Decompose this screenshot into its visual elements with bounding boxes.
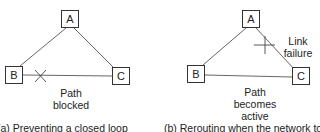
node-b-panel-b: B xyxy=(187,65,205,83)
path-blocked-line2: blocked xyxy=(46,99,96,111)
path-active-line2: becomes xyxy=(225,98,285,110)
path-blocked-line1: Path xyxy=(46,87,96,99)
spanning-tree-diagram: A B C Path blocked (a) Preventing a clos… xyxy=(0,0,320,132)
link-failure-line2: failure xyxy=(278,47,318,59)
blocked-x-icon xyxy=(35,70,46,82)
link-failure-line1: Link xyxy=(278,35,318,47)
node-a-panel-a: A xyxy=(61,10,79,28)
link-a-b-panel-b xyxy=(203,28,246,65)
path-active-label: Path becomes active xyxy=(225,86,285,122)
path-active-line3: active xyxy=(225,110,285,122)
node-a-panel-b: A xyxy=(242,10,260,28)
link-a-b-panel-a xyxy=(20,28,66,66)
link-failure-label: Link failure xyxy=(278,35,318,59)
node-c-panel-b: C xyxy=(292,67,310,85)
link-a-c-panel-a xyxy=(74,28,115,69)
caption-panel-b: (b) Rerouting when the network topology … xyxy=(164,122,320,132)
link-b-c-panel-b xyxy=(205,75,292,77)
link-b-c-panel-a xyxy=(23,75,112,76)
path-active-line1: Path xyxy=(225,86,285,98)
path-blocked-label: Path blocked xyxy=(46,87,96,111)
link-failure-cross-icon xyxy=(254,36,275,54)
node-c-panel-a: C xyxy=(112,67,130,85)
node-b-panel-a: B xyxy=(5,66,23,84)
caption-panel-a: (a) Preventing a closed loop xyxy=(0,122,128,132)
